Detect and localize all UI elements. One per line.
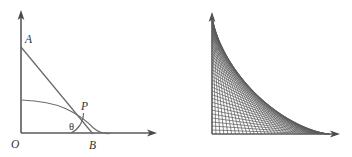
point-label-o: O — [11, 138, 20, 150]
math-figure-svg: A P B O θ — [0, 0, 352, 157]
right-panel-group — [209, 12, 340, 137]
left-panel-group: A P B O θ — [11, 10, 157, 151]
point-label-a: A — [24, 33, 33, 45]
angle-label-theta: θ — [69, 121, 74, 132]
figure-root: A P B O θ — [0, 0, 352, 157]
astroid-envelope-arc — [21, 100, 110, 134]
point-label-p: P — [80, 100, 88, 112]
point-label-b: B — [89, 139, 96, 151]
ladder-family-lines — [212, 14, 330, 134]
